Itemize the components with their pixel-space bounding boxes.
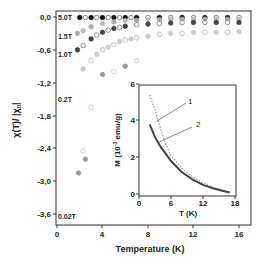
data-point <box>146 34 151 39</box>
y-tick-label: -2,4 <box>37 144 51 153</box>
data-point <box>225 20 230 25</box>
data-point <box>129 15 134 20</box>
data-point <box>237 20 242 25</box>
data-point <box>100 15 105 20</box>
inset-x-tick: 12 <box>199 199 208 208</box>
x-tick-label: 0 <box>55 230 60 239</box>
y-tick-label: 0,0 <box>40 13 52 22</box>
inset-x-tick: 0 <box>137 199 142 208</box>
data-point <box>106 45 111 50</box>
data-point <box>117 39 122 44</box>
main-y-axis: 0,0 -0,6 -1,2 -1,8 -2,4 -3,0 -3,6 <box>37 13 56 219</box>
data-point <box>214 20 219 25</box>
chart-figure: 0,0 -0,6 -1,2 -1,8 -2,4 -3,0 -3,6 0 4 8 … <box>0 0 263 261</box>
label-5T: 5.0T <box>58 14 73 21</box>
data-point <box>95 52 100 57</box>
data-point <box>203 20 208 25</box>
data-point <box>112 20 117 25</box>
data-point <box>106 28 111 33</box>
label-1T: 1.0T <box>58 51 73 58</box>
data-point <box>191 30 196 35</box>
inset-x-tick: 18 <box>231 199 240 208</box>
annotation-label-1: 1 <box>188 97 193 106</box>
data-point <box>146 22 151 27</box>
data-point <box>89 15 94 20</box>
x-tick-label: 16 <box>235 230 244 239</box>
data-point <box>191 20 196 25</box>
data-point <box>81 149 86 154</box>
main-x-axis: 0 4 8 12 16 <box>55 225 244 239</box>
data-point <box>81 43 86 48</box>
y-tick-label: -3,0 <box>37 177 51 186</box>
data-point <box>112 69 117 74</box>
data-point <box>146 17 151 22</box>
main-x-axis-title: Temperature (K) <box>116 244 185 254</box>
data-point <box>95 33 100 38</box>
data-point <box>237 29 242 34</box>
data-point <box>77 15 82 20</box>
data-point <box>180 20 185 25</box>
svg-text:χ(T)/ |χ0|: χ(T)/ |χ0| <box>11 102 22 137</box>
data-point <box>129 37 134 42</box>
data-point <box>81 67 86 72</box>
data-point <box>157 21 162 26</box>
data-point <box>134 35 139 40</box>
y-tick-label: -1,8 <box>37 112 51 121</box>
svg-text:M (10-3 emu/g): M (10-3 emu/g) <box>112 113 122 167</box>
inset-y-axis-title: M (10-3 emu/g) <box>112 113 122 167</box>
label-0-02T: 0.02T <box>58 213 77 220</box>
data-point <box>157 32 162 37</box>
data-point <box>106 15 111 20</box>
data-point <box>134 58 139 63</box>
label-0-2T: 0.2T <box>58 96 73 103</box>
data-point <box>168 31 173 36</box>
inset-y-tick: 4 <box>131 116 136 125</box>
data-point <box>112 26 117 31</box>
data-point <box>89 37 94 42</box>
inset-x-axis-title: T (K) <box>179 209 198 218</box>
data-point <box>89 58 94 63</box>
data-point <box>117 15 122 20</box>
y-tick-label: -0,6 <box>37 46 51 55</box>
x-tick-label: 12 <box>189 230 198 239</box>
data-point <box>81 28 86 33</box>
y-tick-label: -3,6 <box>37 210 51 219</box>
inset-y-tick: 6 <box>131 80 136 89</box>
field-labels: 5.0T 1.5T 1.0T 0.2T 0.02T <box>58 14 77 220</box>
data-point <box>214 30 219 35</box>
label-1-5T: 1.5T <box>58 33 73 40</box>
data-point <box>100 21 105 26</box>
data-point <box>95 15 100 20</box>
data-point <box>100 72 105 77</box>
main-y-axis-title: χ(T)/ |χ0| <box>11 102 22 137</box>
data-point <box>83 15 88 20</box>
data-point <box>180 31 185 36</box>
data-point <box>89 25 94 30</box>
data-point <box>168 21 173 26</box>
data-point <box>134 18 139 23</box>
data-point <box>100 48 105 53</box>
data-point <box>225 30 230 35</box>
x-tick-label: 8 <box>146 230 151 239</box>
data-point <box>100 30 105 35</box>
data-point <box>112 15 117 20</box>
data-point <box>123 24 128 29</box>
annotation-label-2: 2 <box>196 120 201 129</box>
inset-y-tick: 0 <box>131 190 136 199</box>
inset-y-axis: 0 2 4 6 <box>131 80 139 199</box>
data-point <box>75 31 80 36</box>
data-point <box>112 42 117 47</box>
data-point <box>123 19 128 24</box>
y-tick-label: -1,2 <box>37 79 51 88</box>
data-point <box>203 30 208 35</box>
inset-x-axis: 0 6 12 18 <box>137 196 240 208</box>
x-tick-label: 4 <box>100 230 105 239</box>
data-point <box>134 22 139 27</box>
data-point <box>123 38 128 43</box>
data-point <box>83 157 88 162</box>
data-point <box>117 25 122 30</box>
data-point <box>76 171 81 176</box>
data-point <box>89 105 94 110</box>
data-point <box>75 48 80 53</box>
data-point <box>123 64 128 69</box>
